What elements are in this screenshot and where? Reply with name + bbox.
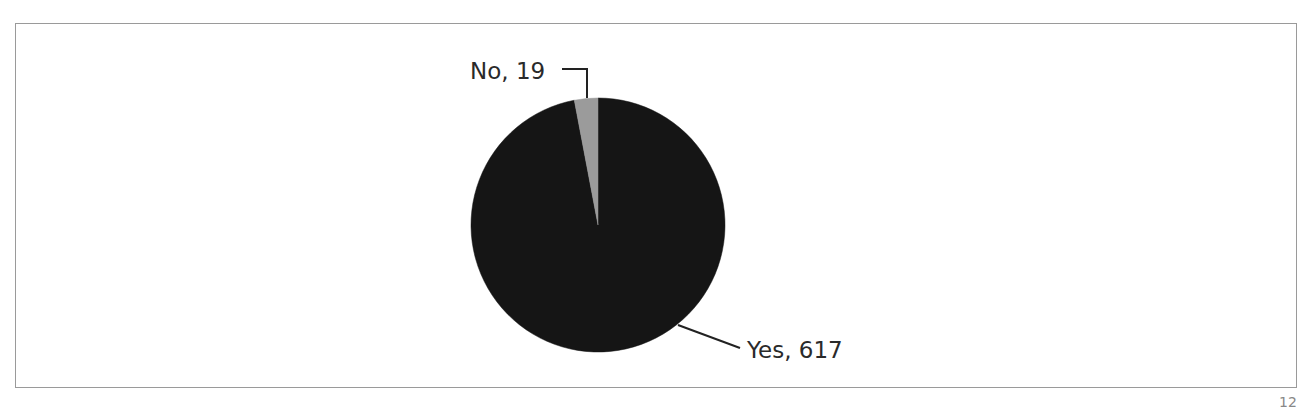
yes-slice-label: Yes, 617	[746, 337, 843, 363]
page-number: 12	[1279, 394, 1297, 410]
no-slice-label: No, 19	[470, 58, 545, 84]
no-leader-line	[562, 69, 587, 98]
yes-leader-line	[678, 325, 740, 348]
pie-slices	[471, 98, 725, 352]
